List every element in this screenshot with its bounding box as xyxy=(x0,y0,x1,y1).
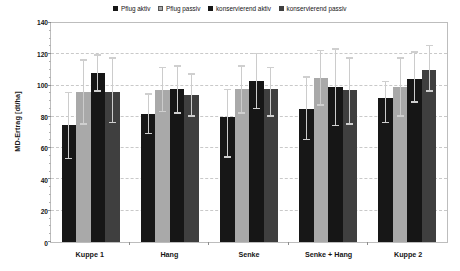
x-category-label: Senke xyxy=(209,250,289,259)
bar-slot xyxy=(264,23,279,242)
y-tick-label: 140 xyxy=(24,19,48,26)
error-bar-cap-bottom xyxy=(174,112,181,114)
x-axis-category-labels: Kuppe 1HangSenkeSenke + HangKuppe 2 xyxy=(50,250,448,259)
legend-swatch-icon xyxy=(158,6,163,11)
error-bar xyxy=(68,92,69,159)
error-bar xyxy=(400,57,401,116)
chart-legend: Pflug aktivPflug passivkonservierend akt… xyxy=(0,5,460,12)
error-bar-cap-top xyxy=(238,65,245,67)
plot-area xyxy=(50,22,448,243)
bar-group-bars xyxy=(289,23,368,242)
bar-group xyxy=(209,23,288,242)
error-bar xyxy=(191,73,192,117)
error-bar-cap-bottom xyxy=(65,158,72,160)
bar[interactable] xyxy=(91,73,106,242)
bar-slot xyxy=(378,23,393,242)
error-bar-cap-top xyxy=(80,59,87,61)
error-bar-cap-top xyxy=(159,67,166,69)
error-bar xyxy=(112,57,113,123)
error-bar-cap-bottom xyxy=(159,111,166,113)
legend-label: konservierend passiv xyxy=(286,5,346,12)
error-bar-cap-bottom xyxy=(109,122,116,124)
error-bar-cap-bottom xyxy=(317,104,324,106)
bar[interactable] xyxy=(184,95,199,242)
error-bar-cap-bottom xyxy=(426,90,433,92)
error-bar xyxy=(97,54,98,92)
bar[interactable] xyxy=(407,79,422,242)
error-bar-cap-top xyxy=(382,81,389,83)
bar-slot xyxy=(314,23,329,242)
x-axis-group-tick xyxy=(288,242,289,245)
error-bar-cap-bottom xyxy=(346,123,353,125)
bar-slot xyxy=(170,23,185,242)
bar[interactable] xyxy=(422,70,437,242)
error-bar xyxy=(414,51,415,103)
error-bar-cap-bottom xyxy=(94,90,101,92)
error-bar xyxy=(227,89,228,158)
bar-slot xyxy=(249,23,264,242)
bar-group xyxy=(289,23,368,242)
bar-group-bars xyxy=(368,23,447,242)
error-bar-cap-top xyxy=(224,89,231,91)
bar-slot xyxy=(62,23,77,242)
error-bar-cap-top xyxy=(411,51,418,53)
bar-slot xyxy=(141,23,156,242)
legend-label: Pflug passiv xyxy=(166,5,200,12)
legend-swatch-icon xyxy=(113,6,118,11)
legend-item[interactable]: Pflug aktiv xyxy=(113,5,150,12)
bar-group xyxy=(130,23,209,242)
x-axis-group-tick xyxy=(129,242,130,245)
bar-slot xyxy=(328,23,343,242)
y-tick-label: 120 xyxy=(24,50,48,57)
error-bar xyxy=(429,45,430,92)
y-axis-tick-labels: 140120100806040200 xyxy=(20,0,48,271)
x-category-label: Senke + Hang xyxy=(289,250,369,259)
legend-swatch-icon xyxy=(208,6,213,11)
error-bar xyxy=(320,50,321,106)
error-bar-cap-top xyxy=(346,57,353,59)
legend-item[interactable]: konservierend aktiv xyxy=(208,5,271,12)
error-bar-cap-bottom xyxy=(80,123,87,125)
error-bar-cap-top xyxy=(253,53,260,55)
error-bar-cap-top xyxy=(397,57,404,59)
bar-slot xyxy=(105,23,120,242)
error-bar-cap-bottom xyxy=(397,115,404,117)
bar-group-bars xyxy=(130,23,209,242)
error-bar-cap-top xyxy=(174,65,181,67)
error-bar-cap-top xyxy=(94,54,101,56)
legend-item[interactable]: konservierend passiv xyxy=(279,5,347,12)
error-bar-cap-bottom xyxy=(238,112,245,114)
error-bar-cap-bottom xyxy=(267,115,274,117)
error-bar-cap-bottom xyxy=(382,122,389,124)
bar-group xyxy=(51,23,130,242)
y-tick-label: 0 xyxy=(24,240,48,247)
error-bar-cap-top xyxy=(317,50,324,52)
error-bar xyxy=(306,76,307,140)
error-bar xyxy=(177,65,178,113)
y-tick-label: 100 xyxy=(24,82,48,89)
y-tick-label: 80 xyxy=(24,113,48,120)
error-bar xyxy=(148,93,149,134)
error-bar-cap-bottom xyxy=(253,108,260,110)
legend-swatch-icon xyxy=(279,6,284,11)
bar-slot xyxy=(76,23,91,242)
error-bar-cap-top xyxy=(426,45,433,47)
error-bar xyxy=(83,59,84,125)
bar-group-bars xyxy=(209,23,288,242)
bar-slot xyxy=(422,23,437,242)
error-bar-cap-bottom xyxy=(224,156,231,158)
error-bar-cap-top xyxy=(65,92,72,94)
legend-item[interactable]: Pflug passiv xyxy=(158,5,200,12)
bar[interactable] xyxy=(155,90,170,242)
bar-group xyxy=(368,23,447,242)
bar-slot xyxy=(299,23,314,242)
bar-slot xyxy=(407,23,422,242)
x-axis-group-tick xyxy=(367,242,368,245)
x-axis-group-tick xyxy=(208,242,209,245)
error-bar-cap-top xyxy=(109,57,116,59)
bar-slot xyxy=(220,23,235,242)
y-tick-label: 60 xyxy=(24,145,48,152)
x-category-label: Kuppe 2 xyxy=(368,250,448,259)
x-category-label: Kuppe 1 xyxy=(50,250,130,259)
bar-group-bars xyxy=(51,23,130,242)
